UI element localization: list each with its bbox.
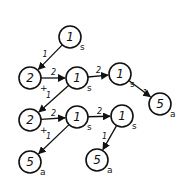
node-n4: 1s (109, 63, 135, 89)
node-n8: 1s (111, 105, 137, 131)
node-subscript: a (170, 109, 176, 119)
node-subscript: s (80, 42, 85, 52)
edges-layer: 122112211 (38, 45, 150, 154)
node-subscript: s (87, 83, 92, 93)
edge-n1-n2: 1 (38, 45, 62, 70)
nodes-layer: 1s2+1s1s5a2+1s1s5a5a (19, 26, 176, 177)
node-value: 2 (26, 71, 34, 85)
node-subscript: a (40, 167, 46, 177)
edge-n6-n7: 2 (41, 109, 65, 120)
edge-n2-n3: 2 (41, 68, 65, 78)
node-subscript: + (40, 83, 48, 93)
graph-diagram: 122112211 1s2+1s1s5a2+1s1s5a5a (0, 0, 189, 190)
node-value: 1 (73, 71, 81, 85)
node-n5: 5a (149, 93, 176, 119)
node-n9: 5a (19, 151, 46, 177)
node-n2: 2+ (19, 67, 48, 93)
node-n6: 2+ (19, 109, 48, 135)
edge-weight-label: 2 (97, 107, 102, 116)
node-n1: 1s (59, 26, 85, 52)
edge-n7-n8: 2 (88, 107, 110, 117)
edge-weight-label: 2 (51, 109, 56, 118)
node-value: 5 (156, 97, 164, 111)
edge-weight-label: 1 (42, 50, 47, 59)
arrow-icon (88, 75, 108, 77)
node-value: 5 (93, 153, 101, 167)
edge-weight-label: 2 (96, 66, 101, 75)
node-n3: 1s (66, 67, 92, 93)
edge-n8-n10: 1 (102, 126, 117, 150)
node-n10: 5a (86, 149, 113, 175)
node-subscript: s (132, 121, 137, 131)
node-value: 2 (26, 113, 34, 127)
node-subscript: s (87, 122, 92, 132)
node-value: 1 (116, 67, 124, 81)
edge-weight-label: 1 (142, 89, 147, 98)
node-value: 1 (118, 109, 126, 123)
node-subscript: s (130, 79, 135, 89)
node-value: 1 (66, 30, 74, 44)
node-value: 1 (73, 110, 81, 124)
node-subscript: + (40, 125, 48, 135)
edge-n3-n4: 2 (88, 66, 108, 77)
edge-weight-label: 2 (51, 68, 56, 77)
edge-weight-label: 1 (102, 132, 107, 141)
node-value: 5 (26, 155, 34, 169)
arrow-icon (41, 118, 65, 120)
node-n7: 1s (66, 106, 92, 132)
node-subscript: a (107, 165, 113, 175)
